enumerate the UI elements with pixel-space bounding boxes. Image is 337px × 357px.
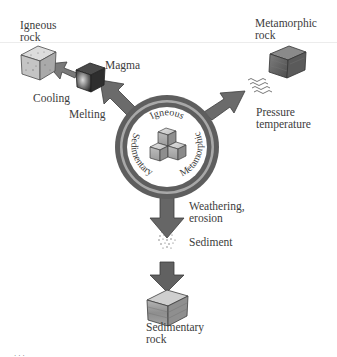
label-sedimentary-rock: Sedimentary rock <box>146 321 204 345</box>
arrow-to-sediment <box>150 196 184 238</box>
label-sedimentary-rock-line2: rock <box>146 333 204 345</box>
label-cooling: Cooling <box>33 92 70 104</box>
metamorphic-rock-icon <box>269 46 306 78</box>
rock-cycle-diagram: Igneous Sedimentary Metamorphic <box>0 0 337 357</box>
label-pressure-line1: Pressure <box>256 106 311 118</box>
label-sedimentary-rock-line1: Sedimentary <box>146 321 204 333</box>
label-pressure-temperature: Pressure temperature <box>256 106 311 130</box>
label-magma: Magma <box>105 59 140 71</box>
label-igneous-rock-line1: Igneous <box>20 19 56 31</box>
label-sediment: Sediment <box>189 236 232 248</box>
arrow-to-metamorphic <box>204 91 245 120</box>
label-weathering-line1: Weathering, <box>189 200 245 212</box>
label-metamorphic-rock: Metamorphic rock <box>255 17 317 41</box>
label-pressure-line2: temperature <box>256 118 311 130</box>
label-weathering-line2: erosion <box>189 212 245 224</box>
label-igneous-rock: Igneous rock <box>20 19 56 43</box>
label-weathering-erosion: Weathering, erosion <box>189 200 245 224</box>
magma-icon <box>76 63 105 92</box>
label-metamorphic-rock-line2: rock <box>255 29 317 41</box>
igneous-rock-icon <box>21 46 56 80</box>
pressure-wave-icon <box>248 79 272 94</box>
label-melting: Melting <box>69 108 105 120</box>
arrow-to-sedimentary-rock <box>150 262 184 292</box>
footer-fragment: ... <box>14 349 27 357</box>
label-metamorphic-rock-line1: Metamorphic <box>255 17 317 29</box>
label-igneous-rock-line2: rock <box>20 31 56 43</box>
